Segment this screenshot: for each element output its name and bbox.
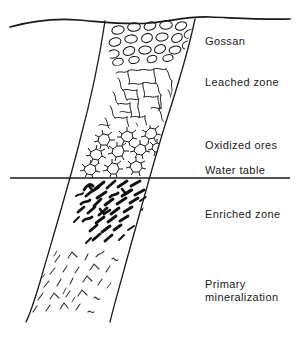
zone-label-primary-mineralization: Primary mineralization bbox=[205, 278, 278, 304]
zone-label-enriched-zone: Enriched zone bbox=[205, 208, 281, 221]
zone-label-oxidized-ores: Oxidized ores bbox=[205, 139, 277, 152]
figure-canvas: Gossan Leached zone Oxidized ores Water … bbox=[0, 0, 298, 337]
zone-label-water-table: Water table bbox=[205, 164, 265, 177]
ore-vein-body bbox=[26, 19, 195, 322]
zone-label-leached-zone: Leached zone bbox=[205, 76, 279, 89]
oxidized-ores-texture-stars bbox=[80, 124, 166, 179]
leached-zone-texture-cracks bbox=[99, 68, 173, 132]
zone-label-gossan: Gossan bbox=[205, 35, 245, 48]
enriched-zone-texture-dashes bbox=[74, 181, 147, 243]
gossan-texture-ovals bbox=[106, 20, 195, 67]
